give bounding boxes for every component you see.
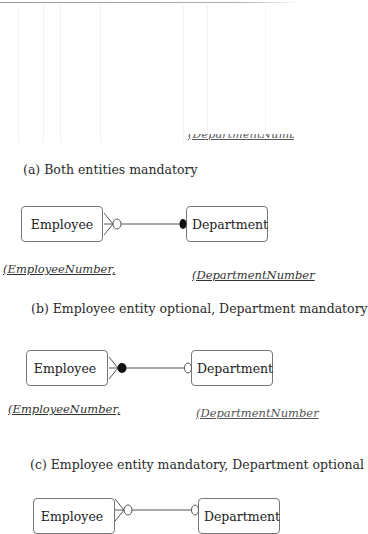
caption-b: (b) Employee entity optional, Department… bbox=[31, 301, 368, 316]
filled-circle-icon bbox=[118, 363, 127, 373]
caption-a: (a) Both entities mandatory bbox=[23, 162, 198, 177]
ghost-line bbox=[183, 5, 184, 143]
ghost-line bbox=[43, 5, 44, 143]
employee-key-b: (EmployeeNumber, bbox=[8, 402, 120, 416]
ghost-line bbox=[265, 5, 266, 143]
open-circle-icon bbox=[192, 505, 199, 515]
open-circle-icon bbox=[113, 219, 121, 229]
employee-key-a: (EmployeeNumber, bbox=[3, 262, 115, 276]
open-circle-icon bbox=[185, 363, 192, 373]
relationship-line-a bbox=[0, 200, 331, 260]
ghost-line bbox=[18, 5, 19, 143]
open-circle-icon bbox=[124, 505, 132, 515]
relationship-line-b bbox=[0, 344, 331, 404]
clipped-department-key: (DepartmentNumber) bbox=[188, 134, 294, 142]
ghost-line bbox=[100, 5, 101, 143]
relationship-line-c bbox=[0, 492, 331, 532]
caption-c: (c) Employee entity mandatory, Departmen… bbox=[30, 457, 364, 472]
department-key-b: (DepartmentNumber bbox=[196, 406, 319, 420]
department-key-a: (DepartmentNumber bbox=[192, 268, 315, 282]
filled-circle-icon bbox=[180, 219, 187, 229]
ghost-line bbox=[207, 5, 208, 143]
top-rule bbox=[0, 2, 300, 3]
ghost-line bbox=[60, 5, 61, 143]
